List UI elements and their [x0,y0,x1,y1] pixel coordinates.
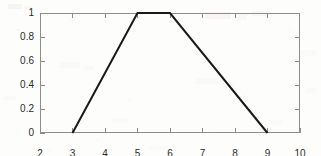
y-tick-label-0-6: 0.6 [6,56,34,66]
y-tick-label-0-4: 0.4 [6,80,34,90]
series-line-trapezoidal-membership-function [73,13,268,133]
y-tick-label-1: 1 [6,8,34,18]
x-tick-label-4: 4 [102,149,108,156]
x-tick-label-9: 9 [265,149,271,156]
x-tick-label-6: 6 [167,149,173,156]
y-tick-label-0-8: 0.8 [6,32,34,42]
plot-area: 2 3 4 5 6 7 8 9 10 0 0.2 0.4 0.6 0.8 1 [40,13,300,133]
chart-figure: 2 3 4 5 6 7 8 9 10 0 0.2 0.4 0.6 0.8 1 [0,0,321,156]
y-tick-label-0: 0 [6,128,34,138]
x-tick-label-7: 7 [200,149,206,156]
x-tick-label-8: 8 [232,149,238,156]
x-tick-label-2: 2 [37,149,43,156]
x-tick-label-3: 3 [70,149,76,156]
x-tick-label-10: 10 [294,149,305,156]
y-tick-label-0-2: 0.2 [6,104,34,114]
x-tick-label-5: 5 [135,149,141,156]
trapezoid-curve [40,13,300,133]
